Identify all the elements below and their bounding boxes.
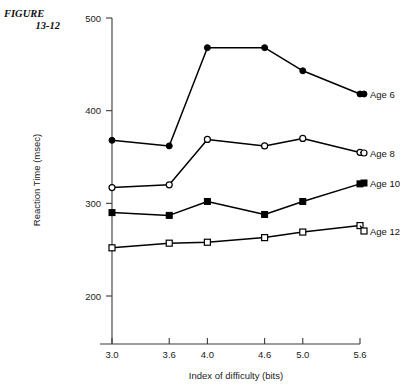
series-line [112, 184, 360, 216]
data-point-marker [109, 210, 115, 216]
chart-legend: Age 6Age 8Age 10Age 12 [360, 89, 400, 237]
data-point-marker [109, 137, 115, 143]
series-line [112, 48, 360, 146]
legend-marker [361, 150, 367, 156]
x-tick-label: 5.6 [353, 349, 366, 360]
x-axis-title: Index of difficulty (bits) [189, 370, 283, 381]
series-line [112, 139, 360, 188]
data-point-marker [204, 239, 210, 245]
data-point-marker [262, 211, 268, 217]
y-tick-label: 400 [85, 105, 101, 116]
y-tick-label: 300 [85, 198, 101, 209]
data-point-marker [166, 143, 172, 149]
legend-label: Age 6 [370, 89, 395, 100]
data-point-marker [262, 143, 268, 149]
x-tick-label: 4.6 [258, 349, 271, 360]
data-point-marker [109, 185, 115, 191]
x-tick-label: 5.0 [296, 349, 309, 360]
data-point-marker [166, 182, 172, 188]
y-axis-title: Reaction Time (msec) [31, 134, 42, 226]
series-group [109, 45, 363, 251]
legend-marker [361, 91, 367, 97]
data-point-marker [204, 136, 210, 142]
y-tick-group: 200300400500 [85, 13, 112, 302]
x-axis: 3.03.64.04.65.05.6 Index of difficulty (… [100, 338, 367, 381]
x-tick-label: 3.6 [163, 349, 176, 360]
legend-label: Age 8 [370, 148, 395, 159]
series-line [112, 226, 360, 248]
data-point-marker [300, 229, 306, 235]
figure-root: FIGURE 13-12 200300400500 Reaction Time … [0, 0, 412, 387]
legend-marker [361, 228, 367, 234]
data-point-marker [109, 245, 115, 251]
data-series [109, 223, 363, 251]
data-point-marker [300, 135, 306, 141]
data-point-marker [300, 198, 306, 204]
legend-marker [361, 180, 367, 186]
data-point-marker [204, 45, 210, 51]
data-series [109, 45, 363, 149]
y-tick-label: 500 [85, 13, 101, 24]
x-tick-label: 3.0 [105, 349, 118, 360]
y-tick-label: 200 [85, 291, 101, 302]
x-tick-label: 4.0 [201, 349, 214, 360]
x-tick-group: 3.03.64.04.65.05.6 [105, 338, 366, 360]
data-point-marker [262, 235, 268, 241]
data-point-marker [300, 68, 306, 74]
legend-label: Age 10 [370, 178, 400, 189]
data-point-marker [166, 212, 172, 218]
reaction-time-line-chart: 200300400500 Reaction Time (msec) 3.03.6… [0, 0, 412, 387]
data-point-marker [204, 198, 210, 204]
y-axis: 200300400500 Reaction Time (msec) [31, 13, 112, 345]
data-point-marker [262, 45, 268, 51]
legend-label: Age 12 [370, 226, 400, 237]
data-point-marker [166, 240, 172, 246]
